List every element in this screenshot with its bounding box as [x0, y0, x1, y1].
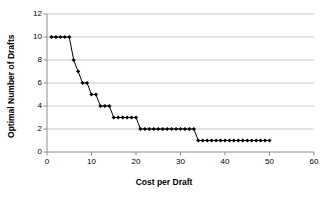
x-tick-label-10: 10	[80, 158, 104, 166]
data-point-marker	[196, 138, 200, 142]
chart-container: 024681012 0102030405060 Cost per Draft O…	[0, 0, 328, 198]
x-tick-label-60: 60	[302, 158, 326, 166]
y-tick-label-8: 8	[22, 56, 42, 64]
data-point-marker	[227, 138, 231, 142]
data-point-marker	[89, 92, 93, 96]
data-point-marker	[67, 35, 71, 39]
data-point-marker	[81, 81, 85, 85]
x-tick-label-20: 20	[124, 158, 148, 166]
x-tick-label-30: 30	[169, 158, 193, 166]
chart-plot-area	[0, 0, 328, 198]
data-point-marker	[254, 138, 258, 142]
y-tick-label-6: 6	[22, 79, 42, 87]
data-point-marker	[129, 115, 133, 119]
y-tick-marks-group	[44, 14, 48, 152]
x-tick-label-50: 50	[258, 158, 282, 166]
data-point-marker	[107, 104, 111, 108]
data-point-marker	[121, 115, 125, 119]
data-point-marker	[63, 35, 67, 39]
data-point-marker	[76, 69, 80, 73]
y-tick-label-0: 0	[22, 148, 42, 156]
data-point-marker	[143, 127, 147, 131]
data-point-marker	[201, 138, 205, 142]
series-markers-group	[49, 35, 271, 143]
data-point-marker	[267, 138, 271, 142]
data-point-marker	[263, 138, 267, 142]
y-tick-label-10: 10	[22, 33, 42, 41]
data-point-marker	[94, 92, 98, 96]
data-point-marker	[241, 138, 245, 142]
data-point-marker	[178, 127, 182, 131]
x-tick-label-0: 0	[35, 158, 59, 166]
series-line-optimal-number-of-drafts	[51, 37, 269, 141]
data-point-marker	[156, 127, 160, 131]
data-point-marker	[223, 138, 227, 142]
data-point-marker	[72, 58, 76, 62]
data-point-marker	[218, 138, 222, 142]
data-point-marker	[174, 127, 178, 131]
data-point-marker	[147, 127, 151, 131]
data-point-marker	[192, 127, 196, 131]
y-axis-title: Optimal Number of Drafts	[7, 21, 16, 151]
data-point-marker	[245, 138, 249, 142]
data-point-marker	[214, 138, 218, 142]
gridlines-group	[47, 14, 314, 129]
data-point-marker	[183, 127, 187, 131]
data-point-marker	[259, 138, 263, 142]
data-point-marker	[236, 138, 240, 142]
y-tick-label-12: 12	[22, 10, 42, 18]
data-point-marker	[58, 35, 62, 39]
data-point-marker	[152, 127, 156, 131]
data-point-marker	[54, 35, 58, 39]
x-tick-marks-group	[47, 152, 314, 156]
data-point-marker	[210, 138, 214, 142]
data-point-marker	[205, 138, 209, 142]
data-point-marker	[161, 127, 165, 131]
data-point-marker	[138, 127, 142, 131]
data-point-marker	[134, 115, 138, 119]
data-point-marker	[232, 138, 236, 142]
x-tick-label-40: 40	[213, 158, 237, 166]
data-point-marker	[187, 127, 191, 131]
data-point-marker	[250, 138, 254, 142]
data-point-marker	[103, 104, 107, 108]
data-point-marker	[85, 81, 89, 85]
y-tick-label-4: 4	[22, 102, 42, 110]
data-point-marker	[116, 115, 120, 119]
data-point-marker	[112, 115, 116, 119]
data-point-marker	[98, 104, 102, 108]
data-point-marker	[49, 35, 53, 39]
data-point-marker	[165, 127, 169, 131]
x-axis-title: Cost per Draft	[0, 178, 328, 187]
data-point-marker	[170, 127, 174, 131]
data-point-marker	[125, 115, 129, 119]
y-tick-label-2: 2	[22, 125, 42, 133]
